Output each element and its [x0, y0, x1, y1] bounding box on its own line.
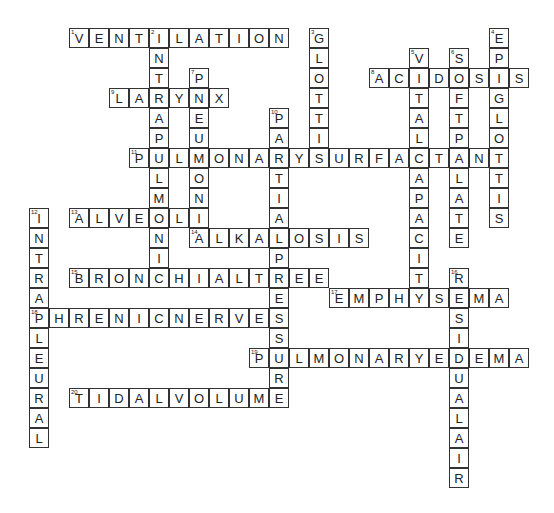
crossword-cell[interactable]: P [409, 188, 429, 208]
crossword-cell[interactable]: P11 [129, 148, 149, 168]
crossword-cell[interactable]: T [489, 148, 509, 168]
crossword-cell[interactable]: O [329, 348, 349, 368]
crossword-cell[interactable]: L [489, 108, 509, 128]
crossword-cell[interactable]: A [449, 388, 469, 408]
crossword-cell[interactable]: S6 [449, 48, 469, 68]
crossword-cell[interactable]: S [429, 288, 449, 308]
crossword-cell[interactable]: R [29, 268, 49, 288]
crossword-cell[interactable]: I [449, 448, 469, 468]
crossword-cell[interactable]: A [389, 148, 409, 168]
crossword-cell[interactable]: S [469, 68, 489, 88]
crossword-cell[interactable]: E [449, 288, 469, 308]
crossword-cell[interactable]: E [309, 268, 329, 288]
crossword-cell[interactable]: E [129, 208, 149, 228]
crossword-cell[interactable]: A [449, 428, 469, 448]
crossword-cell[interactable]: I [309, 128, 329, 148]
crossword-cell[interactable]: E [89, 308, 109, 328]
crossword-cell[interactable]: M [469, 288, 489, 308]
crossword-cell[interactable]: L [209, 228, 229, 248]
crossword-cell[interactable]: L [169, 208, 189, 228]
crossword-cell[interactable]: T [29, 248, 49, 268]
crossword-cell[interactable]: T [429, 148, 449, 168]
crossword-cell[interactable]: P19 [249, 348, 269, 368]
crossword-cell[interactable]: V [169, 388, 189, 408]
crossword-cell[interactable]: U [149, 148, 169, 168]
crossword-cell[interactable]: R [69, 308, 89, 328]
crossword-cell[interactable]: N [149, 228, 169, 248]
crossword-cell[interactable]: A [29, 288, 49, 308]
crossword-cell[interactable]: N [109, 308, 129, 328]
crossword-cell[interactable]: I [329, 228, 349, 248]
crossword-cell[interactable]: A [189, 28, 209, 48]
crossword-cell[interactable]: A [449, 148, 469, 168]
crossword-cell[interactable]: R [389, 348, 409, 368]
crossword-cell[interactable]: L [149, 168, 169, 188]
crossword-cell[interactable]: A [369, 348, 389, 368]
crossword-cell[interactable]: P [449, 128, 469, 148]
crossword-cell[interactable]: F [449, 88, 469, 108]
crossword-cell[interactable]: H [169, 268, 189, 288]
crossword-cell[interactable]: A [249, 228, 269, 248]
crossword-cell[interactable]: P7 [189, 68, 209, 88]
crossword-cell[interactable]: P [489, 48, 509, 68]
crossword-cell[interactable]: S [309, 228, 329, 248]
crossword-cell[interactable]: I2 [149, 28, 169, 48]
crossword-cell[interactable]: D [429, 68, 449, 88]
crossword-cell[interactable]: R [29, 388, 49, 408]
crossword-cell[interactable]: Y [409, 288, 429, 308]
crossword-cell[interactable]: M [309, 348, 329, 368]
crossword-cell[interactable]: B15 [69, 268, 89, 288]
crossword-cell[interactable]: U [189, 128, 209, 148]
crossword-cell[interactable]: L9 [109, 88, 129, 108]
crossword-cell[interactable]: R [269, 148, 289, 168]
crossword-cell[interactable]: N [149, 48, 169, 68]
crossword-cell[interactable]: O [309, 68, 329, 88]
crossword-cell[interactable]: P18 [29, 308, 49, 328]
crossword-cell[interactable]: V1 [69, 28, 89, 48]
crossword-cell[interactable]: G3 [309, 28, 329, 48]
crossword-cell[interactable]: L [29, 328, 49, 348]
crossword-cell[interactable]: A [489, 288, 509, 308]
crossword-cell[interactable]: M [249, 388, 269, 408]
crossword-cell[interactable]: E [249, 308, 269, 328]
crossword-cell[interactable]: L [29, 428, 49, 448]
crossword-cell[interactable]: D [449, 348, 469, 368]
crossword-cell[interactable]: C [149, 268, 169, 288]
crossword-cell[interactable]: A8 [369, 68, 389, 88]
crossword-cell[interactable]: N [229, 148, 249, 168]
crossword-cell[interactable]: L [169, 148, 189, 168]
crossword-cell[interactable]: P [149, 128, 169, 148]
crossword-cell[interactable]: M [149, 188, 169, 208]
crossword-cell[interactable]: V [109, 208, 129, 228]
crossword-cell[interactable]: E [429, 348, 449, 368]
crossword-cell[interactable]: A [129, 88, 149, 108]
crossword-cell[interactable]: U [229, 388, 249, 408]
crossword-cell[interactable]: I [229, 28, 249, 48]
crossword-cell[interactable]: E [189, 108, 209, 128]
crossword-cell[interactable]: N [189, 88, 209, 108]
crossword-cell[interactable]: L [169, 28, 189, 48]
crossword-cell[interactable]: E [469, 348, 489, 368]
crossword-cell[interactable]: L [289, 348, 309, 368]
crossword-cell[interactable]: O [249, 28, 269, 48]
crossword-cell[interactable]: I [449, 328, 469, 348]
crossword-cell[interactable]: H [389, 288, 409, 308]
crossword-cell[interactable]: T [309, 88, 329, 108]
crossword-cell[interactable]: N [129, 268, 149, 288]
crossword-cell[interactable]: E [269, 288, 289, 308]
crossword-cell[interactable]: I [189, 208, 209, 228]
crossword-cell[interactable]: E17 [329, 288, 349, 308]
crossword-cell[interactable]: O [149, 208, 169, 228]
crossword-cell[interactable]: R16 [449, 268, 469, 288]
crossword-cell[interactable]: T [409, 88, 429, 108]
crossword-cell[interactable]: M [349, 288, 369, 308]
crossword-cell[interactable]: I [189, 268, 209, 288]
crossword-cell[interactable]: M [189, 148, 209, 168]
crossword-cell[interactable]: T [449, 108, 469, 128]
crossword-cell[interactable]: A [249, 148, 269, 168]
crossword-cell[interactable]: V [229, 308, 249, 328]
crossword-cell[interactable]: S [509, 68, 529, 88]
crossword-cell[interactable]: O [289, 228, 309, 248]
crossword-cell[interactable]: T [309, 108, 329, 128]
crossword-cell[interactable]: R [269, 268, 289, 288]
